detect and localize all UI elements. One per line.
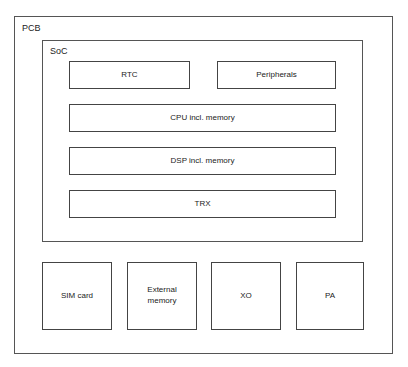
sim-card-block: SIM card — [42, 262, 112, 330]
pa-block: PA — [296, 262, 364, 330]
soc-label: SoC — [50, 46, 68, 56]
external-memory-block: External memory — [127, 262, 197, 330]
pcb-label: PCB — [22, 23, 41, 33]
dsp-block: DSP incl. memory — [69, 147, 336, 175]
cpu-block: CPU incl. memory — [69, 104, 336, 132]
rtc-block: RTC — [69, 61, 190, 89]
trx-block: TRX — [69, 190, 336, 218]
peripherals-block: Peripherals — [217, 61, 336, 89]
xo-block: XO — [211, 262, 281, 330]
